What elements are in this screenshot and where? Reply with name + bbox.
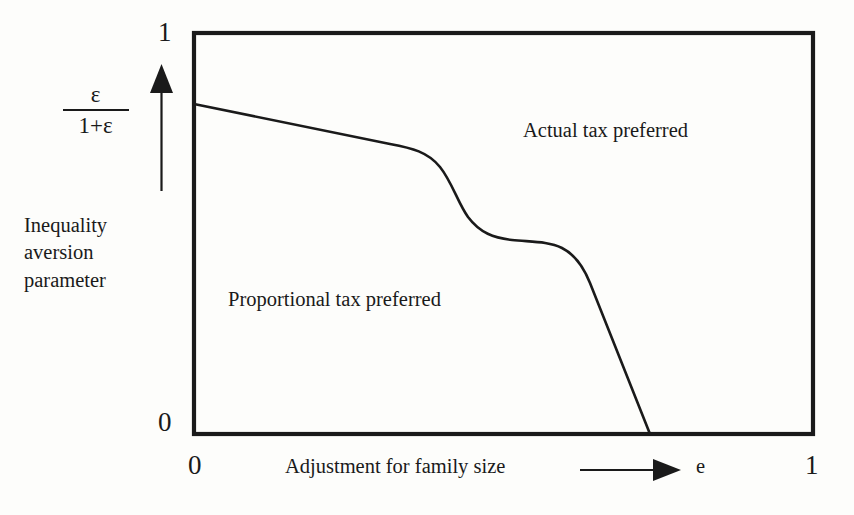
fraction-bar xyxy=(63,109,129,111)
y-axis-fraction-label: ε 1+ε xyxy=(48,83,143,138)
boundary-curve xyxy=(194,104,650,434)
x-axis-caption: Adjustment for family size xyxy=(285,456,505,477)
plot-svg xyxy=(0,0,854,515)
y-axis-caption-line-2: aversion xyxy=(24,239,107,266)
x-axis-symbol-label: e xyxy=(696,456,705,477)
y-axis-caption-line-1: Inequality xyxy=(24,212,107,239)
figure-container: 1 0 ε 1+ε Inequality aversion parameter … xyxy=(0,0,854,515)
y-axis-tick-label-top: 1 xyxy=(158,19,172,46)
x-axis-tick-label-right: 1 xyxy=(805,452,819,479)
x-axis-arrow-icon xyxy=(580,459,681,481)
fraction-numerator: ε xyxy=(48,83,143,108)
y-axis-tick-label-bottom: 0 xyxy=(158,409,172,436)
plot-frame xyxy=(194,33,813,434)
x-axis-tick-label-left: 0 xyxy=(188,452,202,479)
y-axis-caption: Inequality aversion parameter xyxy=(24,212,107,294)
region-label-proportional-tax: Proportional tax preferred xyxy=(228,289,441,310)
y-axis-arrow-icon xyxy=(150,64,173,191)
y-axis-caption-line-3: parameter xyxy=(24,267,107,294)
region-label-actual-tax: Actual tax preferred xyxy=(523,120,688,141)
fraction-denominator: 1+ε xyxy=(48,113,143,138)
